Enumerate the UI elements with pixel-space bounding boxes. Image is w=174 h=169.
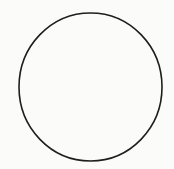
circle-drawing bbox=[0, 0, 174, 169]
circle-outline bbox=[19, 13, 162, 161]
drawing-canvas bbox=[0, 0, 174, 169]
